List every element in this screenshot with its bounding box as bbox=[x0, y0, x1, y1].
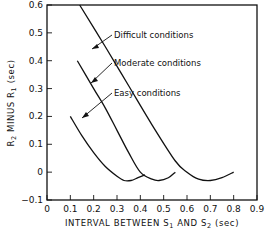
y-tick-label: 0 bbox=[37, 167, 43, 177]
series-line-easy bbox=[70, 116, 145, 181]
x-axis-ticks: 00.10.20.30.40.50.60.70.80.9 bbox=[44, 195, 264, 214]
y-axis-label: R2 MINUS R1 (sec) bbox=[6, 59, 18, 146]
annotation-moderate: Moderate conditions bbox=[91, 58, 201, 83]
x-tick-label: 0.6 bbox=[180, 204, 195, 214]
svg-text:Difficult conditions: Difficult conditions bbox=[114, 30, 194, 40]
annotation-difficult: Difficult conditions bbox=[92, 30, 194, 49]
x-tick-label: 0.9 bbox=[250, 204, 265, 214]
y-tick-label: 0.1 bbox=[29, 139, 43, 149]
x-tick-label: 0.7 bbox=[203, 204, 217, 214]
svg-text:Easy conditions: Easy conditions bbox=[114, 88, 181, 98]
y-tick-label: 0.5 bbox=[29, 28, 43, 38]
y-tick-label: 0.3 bbox=[29, 84, 43, 94]
annotation-easy: Easy conditions bbox=[82, 88, 181, 118]
x-tick-label: 0.4 bbox=[133, 204, 148, 214]
y-tick-label: 0.2 bbox=[29, 111, 43, 121]
line-chart: 0.60.50.40.30.20.10−0.1 00.10.20.30.40.5… bbox=[0, 0, 266, 234]
svg-text:Moderate conditions: Moderate conditions bbox=[114, 58, 201, 68]
x-tick-label: 0.5 bbox=[157, 204, 171, 214]
x-tick-label: 0 bbox=[44, 204, 50, 214]
series-line-moderate bbox=[77, 61, 175, 181]
x-tick-label: 0.8 bbox=[227, 204, 242, 214]
x-axis-label: INTERVAL BETWEEN S1 AND S2 (sec) bbox=[65, 218, 239, 230]
x-tick-label: 0.3 bbox=[110, 204, 124, 214]
x-tick-label: 0.2 bbox=[87, 204, 101, 214]
y-tick-label: 0.4 bbox=[29, 56, 44, 66]
y-tick-label: −0.1 bbox=[21, 195, 43, 205]
x-tick-label: 0.1 bbox=[63, 204, 77, 214]
y-tick-label: 0.6 bbox=[29, 0, 44, 10]
